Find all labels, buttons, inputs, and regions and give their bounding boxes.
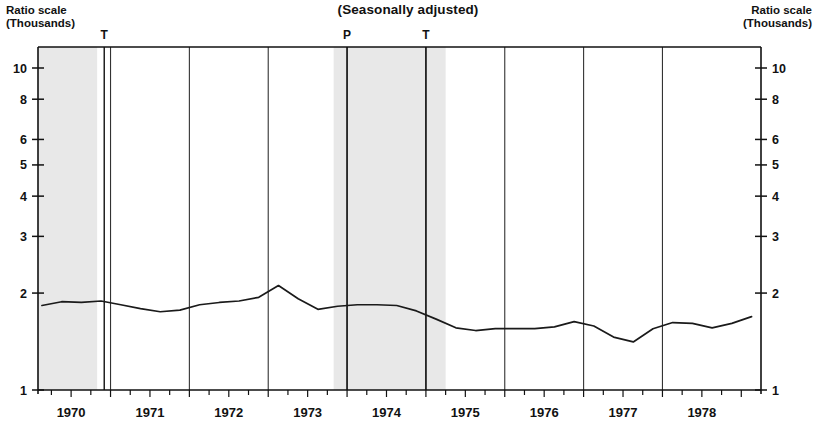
x-axis-year-label: 1971 xyxy=(135,405,164,420)
y-tick-label-left: 8 xyxy=(20,93,27,107)
x-axis-year-label: 1975 xyxy=(451,405,480,420)
x-axis-ticks xyxy=(51,390,741,397)
y-tick-label-right: 4 xyxy=(772,190,779,204)
x-axis-year-label: 1973 xyxy=(293,405,322,420)
y-tick-label-left: 4 xyxy=(20,190,27,204)
y-tick-label-right: 3 xyxy=(772,230,779,244)
x-axis-year-label: 1972 xyxy=(214,405,243,420)
x-axis-year-label: 1977 xyxy=(609,405,638,420)
y-tick-label-right: 1 xyxy=(772,384,779,398)
y-tick-label-right: 5 xyxy=(772,158,779,172)
y-tick-label-right: 10 xyxy=(772,62,786,76)
y-tick-label-left: 6 xyxy=(20,133,27,147)
x-axis-year-label: 1978 xyxy=(687,405,716,420)
chart-plot: 123456810 123456810 19701971197219731974… xyxy=(0,0,816,422)
recession-1973-1975 xyxy=(334,47,446,390)
x-axis-year-label: 1974 xyxy=(372,405,402,420)
y-tick-label-left: 5 xyxy=(20,158,27,172)
x-axis-year-label: 1970 xyxy=(57,405,86,420)
recession-1969-1970 xyxy=(38,47,97,390)
y-tick-label-left: 2 xyxy=(20,287,27,301)
y-axis-right-ticks: 123456810 xyxy=(755,62,786,398)
shaded-regions xyxy=(38,47,446,390)
x-axis-labels: 197019711972197319741975197619771978 xyxy=(57,405,717,420)
y-tick-label-right: 2 xyxy=(772,287,779,301)
chart-container: (Seasonally adjusted) Ratio scale (Thous… xyxy=(0,0,816,422)
y-tick-label-left: 10 xyxy=(13,62,27,76)
y-tick-label-left: 3 xyxy=(20,230,27,244)
y-tick-label-right: 8 xyxy=(772,93,779,107)
y-tick-label-left: 1 xyxy=(20,384,27,398)
y-tick-label-right: 6 xyxy=(772,133,779,147)
x-axis-year-label: 1976 xyxy=(530,405,559,420)
